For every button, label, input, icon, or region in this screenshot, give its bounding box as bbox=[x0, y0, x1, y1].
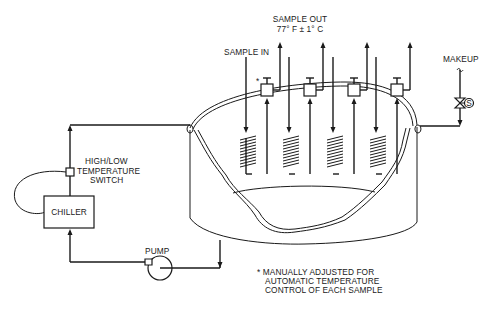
sample-coil-2 bbox=[283, 136, 299, 167]
sample-out-temp-label: 77° F ± 1° C bbox=[277, 24, 324, 34]
note-line-3: CONTROL OF EACH SAMPLE bbox=[265, 285, 383, 295]
chiller-loop bbox=[14, 125, 222, 280]
sample-in-label: SAMPLE IN bbox=[224, 47, 269, 57]
adjust-marker: * bbox=[256, 76, 260, 86]
sample-coil-1 bbox=[240, 136, 256, 167]
switch-label-1: HIGH/LOW bbox=[85, 156, 128, 166]
sample-station-4 bbox=[370, 42, 413, 174]
sample-station-2 bbox=[283, 42, 326, 174]
sample-coil-3 bbox=[327, 136, 343, 167]
solenoid-label: S bbox=[466, 98, 472, 108]
temperature-switch bbox=[66, 168, 74, 176]
adjust-valve-2 bbox=[304, 84, 316, 96]
pump-label: PUMP bbox=[145, 246, 170, 256]
makeup-label: MAKEUP bbox=[443, 54, 479, 64]
sample-station-3 bbox=[327, 42, 370, 174]
adjust-valve-3 bbox=[348, 84, 360, 96]
adjust-valve-4 bbox=[391, 84, 403, 96]
diagram-canvas: SAMPLE OUT 77° F ± 1° C SAMPLE IN MAKEUP… bbox=[0, 0, 490, 310]
sample-coil-4 bbox=[370, 136, 386, 167]
chiller-label: CHILLER bbox=[51, 207, 87, 217]
switch-label-3: SWITCH bbox=[90, 175, 123, 185]
sample-out-label: SAMPLE OUT bbox=[273, 14, 327, 24]
adjust-valve-1 bbox=[261, 84, 273, 96]
sample-stations bbox=[240, 42, 413, 174]
sample-station-1 bbox=[240, 42, 283, 174]
